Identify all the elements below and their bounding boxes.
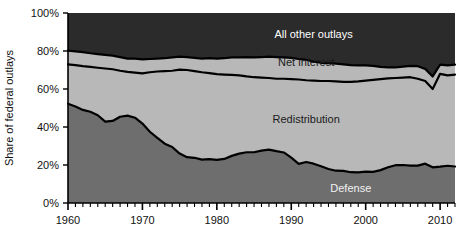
chart-figure: 0%20%40%60%80%100% 196019701980199020002… [0, 0, 467, 236]
series-label-net-interest: Net interest [278, 56, 334, 68]
y-axis-title: Share of federal outlays [3, 49, 15, 166]
x-tick-label-1990: 1990 [279, 214, 303, 226]
stacked-area-chart: 0%20%40%60%80%100% 196019701980199020002… [0, 0, 467, 236]
x-tick-label-1970: 1970 [130, 214, 154, 226]
x-tick-label-1980: 1980 [205, 214, 229, 226]
y-tick-label-40: 40% [37, 121, 59, 133]
y-tick-label-100: 100% [31, 7, 59, 19]
y-tick-label-80: 80% [37, 45, 59, 57]
series-label-defense: Defense [330, 182, 371, 194]
y-tick-label-0: 0% [43, 197, 59, 209]
plot-areas [68, 13, 455, 203]
y-tick-label-20: 20% [37, 159, 59, 171]
x-tick-label-2010: 2010 [428, 214, 452, 226]
series-label-redistribution: Redistribution [273, 113, 340, 125]
y-tick-label-60: 60% [37, 83, 59, 95]
x-tick-label-1960: 1960 [56, 214, 80, 226]
series-label-all-other-outlays: All other outlays [274, 28, 353, 40]
x-tick-label-2000: 2000 [353, 214, 377, 226]
